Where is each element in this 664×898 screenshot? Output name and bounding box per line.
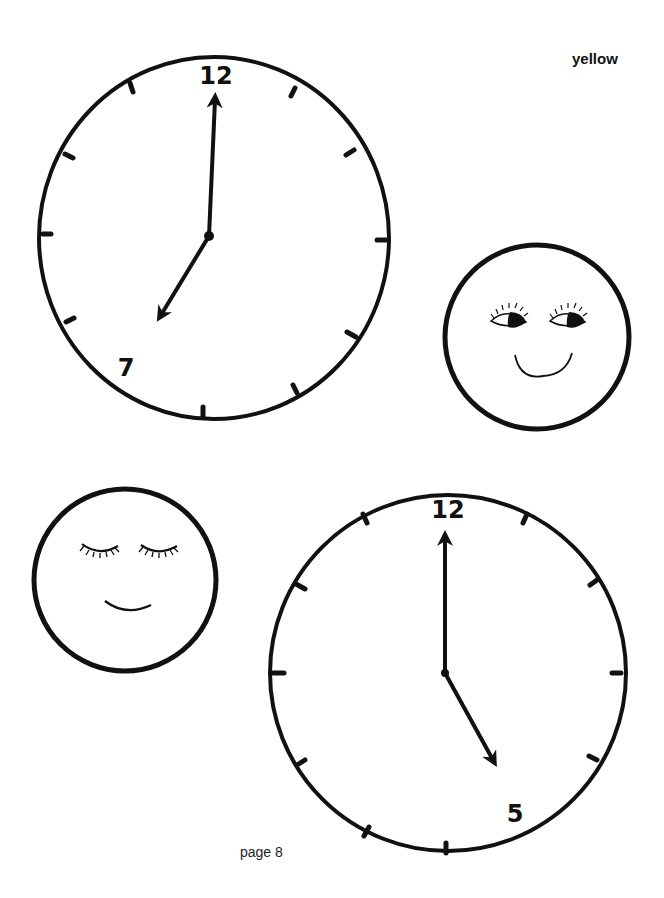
right-eye-icon bbox=[550, 303, 587, 328]
face-asleep bbox=[34, 489, 216, 671]
label-twelve: 12 bbox=[199, 62, 232, 90]
minute-hand bbox=[209, 100, 215, 236]
smile bbox=[105, 601, 151, 610]
worksheet-canvas: 12 7 bbox=[0, 0, 664, 898]
hour-hand bbox=[445, 673, 493, 760]
left-eye-icon bbox=[491, 303, 528, 328]
clock-center bbox=[441, 669, 449, 677]
clock-five: 12 5 bbox=[270, 495, 626, 853]
label-twelve: 12 bbox=[431, 496, 464, 524]
right-closed-eye-icon bbox=[139, 545, 178, 558]
label-hour: 5 bbox=[507, 800, 524, 828]
smile bbox=[515, 353, 572, 377]
left-closed-eye-icon bbox=[80, 544, 119, 558]
clock-center bbox=[204, 231, 214, 241]
hour-hand bbox=[161, 236, 209, 315]
clock-seven: 12 7 bbox=[39, 57, 389, 419]
label-hour: 7 bbox=[118, 354, 135, 382]
face-awake bbox=[445, 245, 629, 429]
